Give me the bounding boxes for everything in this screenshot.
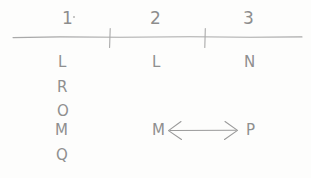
handwritten-diagram-canvas: 1 2 3 L R O M Q L N M P	[0, 0, 311, 178]
column1-letter-3: M	[55, 123, 68, 138]
column3-letter-0: N	[244, 55, 255, 70]
column1-letter-4: Q	[56, 148, 68, 163]
column2-letter-0: L	[152, 55, 160, 70]
arrow-left-label: M	[152, 123, 165, 138]
column-number-3: 3	[243, 10, 254, 27]
axis-line	[13, 37, 302, 38]
tick-mark-1	[110, 29, 111, 48]
arrowhead-right	[225, 122, 238, 140]
column-number-2: 2	[150, 10, 161, 27]
column-number-1: 1	[62, 10, 73, 27]
column1-letter-1: R	[57, 80, 67, 95]
arrow-right-label: P	[246, 123, 255, 138]
column1-letter-0: L	[58, 55, 66, 70]
tick-mark-2	[205, 29, 206, 48]
arrowhead-left	[169, 122, 182, 140]
column1-letter-2: O	[57, 104, 69, 119]
double-headed-arrow-glyph	[169, 122, 238, 140]
